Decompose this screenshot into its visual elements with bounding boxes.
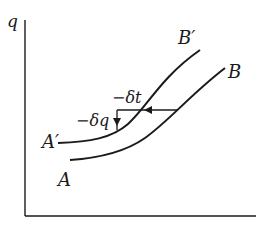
diagram-canvas: q B′ B A′ A −δt −δq [0,0,259,233]
label-b: B [227,61,241,82]
label-a: A [56,169,71,190]
label-a-prime: A′ [40,131,59,152]
delta-t-arrowhead-icon [144,106,152,114]
label-b-prime: B′ [177,27,195,48]
label-delta-t: −δt [112,88,142,107]
label-delta-q: −δq [76,111,109,130]
delta-q-arrowhead-icon [113,118,121,126]
y-axis-label: q [7,11,18,31]
